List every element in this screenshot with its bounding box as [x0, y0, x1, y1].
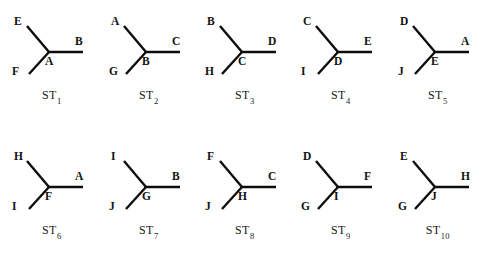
node-label-upper-left: H: [14, 151, 23, 163]
caption-subscript: 9: [346, 231, 350, 241]
caption-prefix: ST: [139, 88, 153, 102]
node-label-upper-left: C: [303, 16, 311, 28]
node-label-lower-left: G: [398, 201, 407, 213]
node-label-center: J: [431, 191, 437, 203]
arm-upper-left: [220, 26, 242, 52]
node-label-center: H: [238, 191, 247, 203]
node-label-lower-left: H: [205, 66, 214, 78]
arm-upper-left: [27, 26, 49, 52]
node-label-lower-left: G: [301, 201, 310, 213]
structure-caption: ST2: [100, 88, 197, 104]
node-label-lower-left: J: [205, 201, 211, 213]
node-label-right: A: [75, 171, 83, 183]
caption-subscript: 5: [443, 96, 447, 106]
arm-upper-left: [124, 26, 146, 52]
node-label-upper-left: E: [14, 16, 22, 28]
node-label-right: H: [461, 171, 470, 183]
caption-subscript: 2: [154, 96, 158, 106]
structure-cell-st7: I J B G ST7: [100, 139, 197, 259]
node-label-lower-left: I: [301, 66, 305, 78]
caption-prefix: ST: [331, 88, 345, 102]
arm-upper-left: [27, 161, 49, 187]
arm-upper-left: [220, 161, 242, 187]
node-label-right: C: [268, 171, 276, 183]
node-label-center: A: [45, 56, 53, 68]
node-label-lower-left: J: [398, 66, 404, 78]
node-label-center: I: [334, 191, 338, 203]
structure-caption: ST6: [3, 223, 100, 239]
caption-subscript: 4: [346, 96, 350, 106]
structure-caption: ST4: [292, 88, 389, 104]
node-label-center: G: [142, 191, 151, 203]
structure-cell-st5: D J A E ST5: [389, 4, 486, 124]
node-label-right: F: [364, 171, 371, 183]
node-label-lower-left: J: [109, 201, 115, 213]
structure-row-top: E F B A ST1 A G C B ST2: [0, 4, 494, 124]
node-label-right: D: [268, 36, 276, 48]
structure-cell-st2: A G C B ST2: [100, 4, 197, 124]
structure-cell-st4: C I E D ST4: [292, 4, 389, 124]
node-label-right: B: [75, 36, 83, 48]
arm-upper-left: [413, 161, 435, 187]
structure-cell-st1: E F B A ST1: [3, 4, 100, 124]
caption-prefix: ST: [235, 88, 249, 102]
arm-upper-left: [124, 161, 146, 187]
node-label-upper-left: D: [303, 151, 311, 163]
structure-row-bottom: H I A F ST6 I J B G ST7: [0, 139, 494, 259]
caption-subscript: 3: [250, 96, 254, 106]
structure-caption: ST7: [100, 223, 197, 239]
structure-caption: ST3: [196, 88, 293, 104]
node-label-upper-left: I: [111, 151, 115, 163]
caption-subscript: 6: [57, 231, 61, 241]
structure-caption: ST5: [389, 88, 486, 104]
structure-cell-st10: E G H J ST10: [389, 139, 486, 259]
caption-prefix: ST: [235, 223, 249, 237]
arm-upper-left: [413, 26, 435, 52]
structure-cell-st9: D G F I ST9: [292, 139, 389, 259]
structure-caption: ST9: [292, 223, 389, 239]
node-label-lower-left: G: [109, 66, 118, 78]
caption-prefix: ST: [331, 223, 345, 237]
node-label-upper-left: D: [400, 16, 408, 28]
caption-prefix: ST: [42, 223, 56, 237]
node-label-upper-left: B: [207, 16, 215, 28]
arm-upper-left: [316, 26, 338, 52]
structure-cell-st3: B H D C ST3: [196, 4, 293, 124]
caption-prefix: ST: [426, 223, 440, 237]
caption-subscript: 8: [250, 231, 254, 241]
node-label-upper-left: F: [207, 151, 214, 163]
structure-cell-st6: H I A F ST6: [3, 139, 100, 259]
caption-prefix: ST: [139, 223, 153, 237]
node-label-right: C: [172, 36, 180, 48]
node-label-lower-left: F: [12, 66, 19, 78]
node-label-upper-left: A: [111, 16, 119, 28]
node-label-right: A: [461, 36, 469, 48]
node-label-center: E: [431, 56, 439, 68]
figure-board: E F B A ST1 A G C B ST2: [0, 0, 494, 269]
structure-cell-st8: F J C H ST8: [196, 139, 293, 259]
structure-caption: ST1: [3, 88, 100, 104]
node-label-center: C: [238, 56, 246, 68]
node-label-center: D: [334, 56, 342, 68]
structure-caption: ST8: [196, 223, 293, 239]
caption-subscript: 1: [57, 96, 61, 106]
node-label-center: F: [45, 191, 52, 203]
caption-prefix: ST: [42, 88, 56, 102]
node-label-upper-left: E: [400, 151, 408, 163]
node-label-right: B: [172, 171, 180, 183]
node-label-center: B: [142, 56, 150, 68]
caption-subscript: 10: [441, 231, 450, 241]
node-label-right: E: [364, 36, 372, 48]
arm-upper-left: [316, 161, 338, 187]
structure-caption: ST10: [389, 223, 486, 239]
caption-prefix: ST: [428, 88, 442, 102]
caption-subscript: 7: [154, 231, 158, 241]
node-label-lower-left: I: [12, 201, 16, 213]
